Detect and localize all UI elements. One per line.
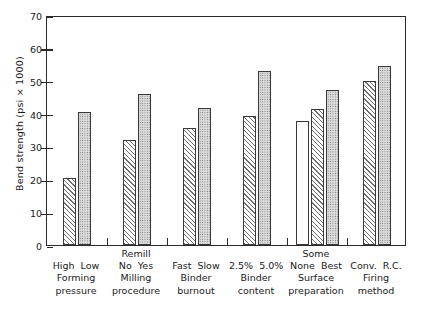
x-axis-group-extra-level (166, 248, 226, 260)
x-axis-factor-name-line1: Surface (286, 272, 346, 284)
x-axis-group-extra-level: Some (286, 248, 346, 260)
x-axis-level-labels: NoneBest (286, 260, 346, 272)
bar (296, 121, 309, 245)
y-tick-mark (47, 82, 53, 83)
x-axis-level-label: None (287, 260, 318, 272)
bar-chart: Bend strength (psi × 1000) 0102030405060… (0, 0, 425, 316)
x-axis-group-3: FastSlowBinderburnout (166, 248, 226, 296)
x-axis-level-labels: NoYes (106, 260, 166, 272)
x-axis-factor-name-line2: procedure (106, 285, 166, 297)
x-axis-level-labels: FastSlow (166, 260, 226, 272)
y-tick-mark (47, 115, 53, 116)
y-tick-mark (47, 148, 53, 149)
y-tick-mark (47, 17, 53, 18)
x-axis-level-label: 2.5% (226, 260, 256, 272)
y-tick-mark (47, 214, 53, 215)
y-tick-label: 20 (20, 175, 42, 186)
x-axis-factor-name-line1: Forming (46, 272, 106, 284)
bar (243, 116, 256, 245)
x-axis-level-label: 5.0% (256, 260, 286, 272)
x-axis-level-label: Fast (169, 260, 194, 272)
x-axis-group-6: Conv.R.C.Firingmethod (346, 248, 406, 296)
bar (63, 178, 76, 245)
x-axis-level-label: Yes (135, 260, 156, 272)
x-axis-level-label: No (116, 260, 135, 272)
bar (363, 81, 376, 245)
y-tick-label: 0 (20, 241, 42, 252)
x-axis-level-labels: Conv.R.C. (346, 260, 406, 272)
y-tick-label: 70 (20, 11, 42, 22)
x-axis-level-labels: HighLow (46, 260, 106, 272)
x-axis-level-label: Slow (194, 260, 222, 272)
bar (311, 109, 324, 245)
x-axis-group-separator (227, 238, 228, 245)
x-axis-factor-name-line2: preparation (286, 285, 346, 297)
x-axis-group-5: SomeNoneBestSurfacepreparation (286, 248, 346, 296)
bar (123, 140, 136, 245)
y-tick-label: 50 (20, 77, 42, 88)
x-axis-group-4: 2.5%5.0%Bindercontent (226, 248, 286, 296)
bar (258, 71, 271, 245)
bar (198, 108, 211, 245)
x-axis-group-separator (167, 238, 168, 245)
x-axis-factor-name-line1: Firing (346, 272, 406, 284)
bar (138, 94, 151, 245)
bar (78, 112, 91, 245)
x-axis-group-extra-level (346, 248, 406, 260)
x-axis-level-labels: 2.5%5.0% (226, 260, 286, 272)
plot-area: 010203040506070 (46, 16, 406, 246)
x-axis-level-label: Best (318, 260, 345, 272)
y-tick-label: 30 (20, 142, 42, 153)
x-axis-factor-name-line2: content (226, 285, 286, 297)
x-axis-factor-name-line2: pressure (46, 285, 106, 297)
x-axis-group-extra-level (46, 248, 106, 260)
x-axis-group-2: RemillNoYesMillingprocedure (106, 248, 166, 296)
x-axis-factor-name-line2: burnout (166, 285, 226, 297)
x-axis-group-separator (347, 238, 348, 245)
y-tick-label: 40 (20, 110, 42, 121)
x-axis-level-label: Conv. (347, 260, 379, 272)
y-tick-mark (47, 181, 53, 182)
x-axis-group-1: HighLowFormingpressure (46, 248, 106, 296)
x-axis-factor-name-line1: Milling (106, 272, 166, 284)
x-axis-level-label: Low (78, 260, 103, 272)
y-tick-mark (47, 49, 53, 50)
x-axis-level-label: High (50, 260, 78, 272)
x-axis-labels: HighLowFormingpressureRemillNoYesMilling… (46, 248, 406, 316)
x-axis-group-separator (107, 238, 108, 245)
x-axis-level-label: R.C. (380, 260, 405, 272)
x-axis-group-separator (287, 238, 288, 245)
x-axis-factor-name-line2: method (346, 285, 406, 297)
x-axis-factor-name-line1: Binder (226, 272, 286, 284)
x-axis-group-extra-level: Remill (106, 248, 166, 260)
y-tick-label: 60 (20, 44, 42, 55)
x-axis-group-extra-level (226, 248, 286, 260)
bar (183, 128, 196, 245)
bar (326, 90, 339, 245)
bar (378, 66, 391, 245)
y-tick-label: 10 (20, 208, 42, 219)
x-axis-factor-name-line1: Binder (166, 272, 226, 284)
